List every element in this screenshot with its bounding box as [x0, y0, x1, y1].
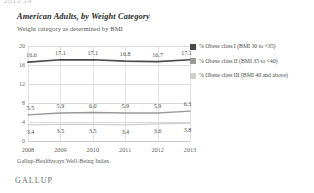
point-label: 16.7 [152, 52, 163, 58]
page-title: American Adults, by Weight Category [17, 12, 150, 21]
point-label: 6.3 [184, 101, 192, 107]
plot-area: 048121620 200820092010201120122013 16.61… [28, 46, 190, 141]
legend-item-1[interactable]: % Obese class I (BMI 30 to <35) [190, 43, 312, 50]
point-label: 3.6 [154, 128, 162, 134]
legend-item-3[interactable]: % Obese class III (BMI 40 and above) [190, 72, 312, 79]
series-line-2 [28, 111, 190, 115]
gallup-logo: GALLUP [15, 176, 53, 185]
legend-label: % Obese class II (BMI 35 to <40) [199, 58, 277, 65]
point-label: 3.4 [27, 129, 35, 135]
x-tick-label: 2010 [87, 146, 99, 153]
y-tick-label: 20 [19, 43, 25, 49]
y-tick-label: 16 [19, 62, 25, 68]
point-label: 5.9 [121, 103, 129, 109]
point-label: 5.9 [57, 103, 65, 109]
x-tick-label: 2009 [54, 146, 66, 153]
point-label: 16.8 [120, 51, 131, 57]
point-label: 16.6 [26, 52, 37, 58]
legend-item-2[interactable]: % Obese class II (BMI 35 to <40) [190, 58, 312, 65]
gridline-y-0 [28, 141, 190, 142]
y-tick-label: 4 [22, 119, 25, 125]
clipped-header-fragment: 2012 14 [4, 0, 32, 4]
page-subtitle: Weight category as determined by BMI [17, 25, 123, 32]
legend-swatch-icon [190, 58, 196, 64]
y-tick-label: 0 [22, 138, 25, 144]
legend-label: % Obese class I (BMI 30 to <35) [199, 43, 276, 50]
point-label: 3.8 [184, 127, 192, 133]
point-label: 3.5 [57, 128, 65, 134]
series-lines [28, 46, 190, 141]
legend-label: % Obese class III (BMI 40 and above) [199, 72, 288, 79]
x-tick-label: 2013 [184, 146, 196, 153]
legend-swatch-icon [190, 44, 196, 50]
y-tick-label: 8 [22, 100, 25, 106]
point-label: 5.9 [154, 103, 162, 109]
point-label: 5.5 [27, 105, 35, 111]
x-tick-label: 2011 [119, 146, 131, 153]
series-line-3 [28, 123, 190, 125]
chart-page: 2012 14 American Adults, by Weight Categ… [0, 0, 314, 193]
point-label: 6.0 [89, 103, 97, 109]
point-label: 3.5 [89, 128, 97, 134]
x-tick-label: 2008 [22, 146, 34, 153]
legend-swatch-icon [190, 73, 196, 79]
point-label: 17.1 [55, 50, 66, 56]
point-label: 17.1 [87, 50, 98, 56]
y-tick-label: 12 [19, 81, 25, 87]
source-note: Gallup-Healthways Well-Being Index [17, 158, 109, 164]
point-label: 3.4 [121, 129, 129, 135]
series-line-1 [28, 60, 190, 62]
x-tick-label: 2012 [151, 146, 163, 153]
chart-legend: % Obese class I (BMI 30 to <35)% Obese c… [190, 43, 312, 87]
